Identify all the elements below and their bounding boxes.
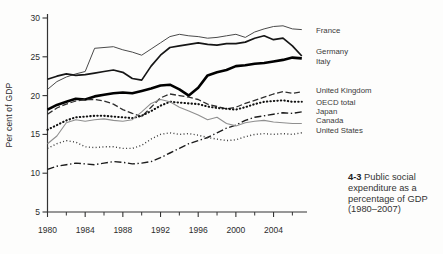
label-oecd-total: OECD total <box>316 98 355 107</box>
label-canada: Canada <box>316 116 343 125</box>
x-tick-label: 2000 <box>226 225 245 235</box>
label-france: France <box>316 26 340 35</box>
label-italy: Italy <box>316 57 330 66</box>
y-tick-label: 5 <box>35 207 40 217</box>
y-tick-label: 15 <box>31 129 41 139</box>
chart-canvas: 510152025301980198419881992199620002004 <box>0 0 443 254</box>
y-tick-label: 20 <box>31 91 41 101</box>
y-tick-label: 30 <box>31 13 41 23</box>
x-tick-label: 1996 <box>189 225 208 235</box>
line-germany <box>48 36 302 80</box>
caption-number: 4-3 <box>348 172 361 182</box>
x-tick-label: 2004 <box>264 225 283 235</box>
y-tick-label: 10 <box>31 168 41 178</box>
x-tick-label: 1984 <box>76 225 95 235</box>
line-united-states <box>48 133 302 149</box>
x-tick-label: 1992 <box>151 225 170 235</box>
x-tick-label: 1980 <box>38 225 57 235</box>
line-chart: 510152025301980198419881992199620002004 … <box>0 0 443 254</box>
line-canada <box>48 100 302 144</box>
figure-4-3: 510152025301980198419881992199620002004 … <box>0 0 443 254</box>
axes <box>48 14 308 212</box>
label-germany: Germany <box>316 47 348 56</box>
label-japan: Japan <box>316 107 337 116</box>
x-tick-label: 1988 <box>113 225 132 235</box>
figure-caption: 4-3 Public social expenditure as a perce… <box>348 172 440 215</box>
y-axis-label: Per cent of GDP <box>4 60 14 170</box>
label-united-kingdom: United Kingdom <box>316 86 371 95</box>
label-united-states: United States <box>316 126 363 135</box>
y-tick-label: 25 <box>31 52 41 62</box>
